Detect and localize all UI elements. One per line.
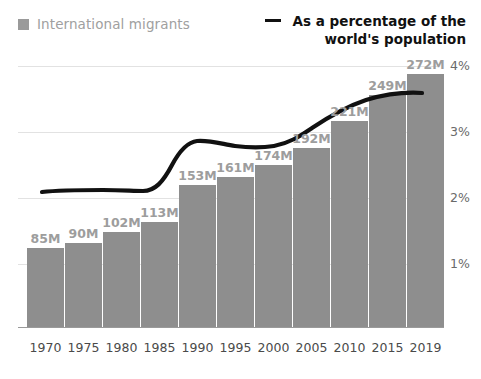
bar-value-2010: 221M (330, 104, 369, 119)
bar-value-1985: 113M (140, 205, 179, 220)
bar-2000 (255, 165, 292, 327)
bar-value-2019: 272M (406, 57, 445, 72)
bar-1990 (179, 185, 216, 327)
bar-2005 (293, 148, 330, 327)
bar-1975 (65, 243, 102, 327)
x-label-2019: 2019 (410, 340, 442, 355)
x-label-1990: 1990 (182, 340, 214, 355)
bar-1980 (103, 232, 140, 327)
chart-svg: 85M 90M 102M 113M 153M 161M 174M 192M 22… (0, 0, 481, 379)
x-label-1970: 1970 (30, 340, 62, 355)
y-label-1pct: 1% (450, 256, 470, 271)
x-label-1980: 1980 (106, 340, 138, 355)
y-label-3pct: 3% (450, 124, 470, 139)
x-label-2005: 2005 (296, 340, 328, 355)
x-label-2010: 2010 (334, 340, 366, 355)
bar-2015 (369, 95, 406, 327)
x-label-2015: 2015 (372, 340, 404, 355)
x-label-1995: 1995 (220, 340, 252, 355)
x-label-1985: 1985 (144, 340, 176, 355)
y-axis-labels: 4% 3% 2% 1% (450, 58, 470, 271)
bars-group (27, 74, 444, 327)
bar-value-2005: 192M (292, 131, 331, 146)
bar-1985 (141, 222, 178, 327)
bar-1970 (27, 248, 64, 327)
bar-value-2000: 174M (254, 148, 293, 163)
x-axis-labels: 1970 1975 1980 1985 1990 1995 2000 2005 … (30, 340, 442, 355)
x-label-2000: 2000 (258, 340, 290, 355)
migration-chart: International migrants As a percentage o… (0, 0, 481, 379)
x-label-1975: 1975 (68, 340, 100, 355)
bar-value-2015: 249M (368, 78, 407, 93)
y-label-4pct: 4% (450, 58, 470, 73)
plot-area: 85M 90M 102M 113M 153M 161M 174M 192M 22… (0, 0, 481, 379)
bar-1995 (217, 177, 254, 327)
bar-2019 (407, 74, 444, 327)
bar-value-1970: 85M (31, 231, 61, 246)
bar-value-1980: 102M (102, 215, 141, 230)
y-label-2pct: 2% (450, 190, 470, 205)
bar-value-1990: 153M (178, 168, 217, 183)
bar-value-1975: 90M (69, 226, 99, 241)
bar-2010 (331, 121, 368, 327)
bar-value-1995: 161M (216, 160, 255, 175)
